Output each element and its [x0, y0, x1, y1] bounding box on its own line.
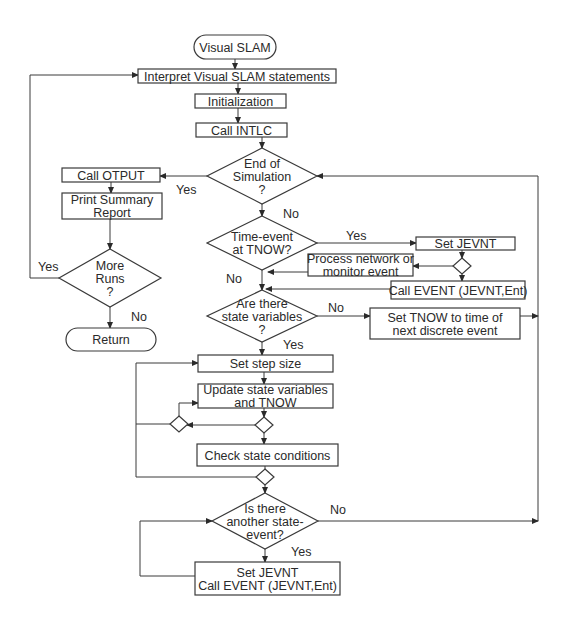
process-box-check: Check state conditions	[197, 444, 338, 466]
connector-arrow	[136, 363, 198, 477]
decision-label: ?	[259, 323, 266, 337]
process-label: Process network or	[307, 252, 414, 266]
process-box-settnow: Set TNOW to time ofnext discrete event	[370, 308, 520, 339]
process-label: monitor event	[323, 265, 399, 279]
process-label: next discrete event	[393, 324, 498, 338]
edge-label: Yes	[291, 545, 311, 559]
decision-label: another state-	[226, 515, 303, 529]
decision-label: ?	[259, 183, 266, 197]
process-box-init: Initialization	[195, 94, 286, 109]
process-label: Call EVENT (JEVNT,Ent)	[389, 284, 528, 298]
terminal-start: Visual SLAM	[194, 35, 276, 59]
decision-statevars: Are therestate variables?	[207, 290, 317, 342]
process-label: Print Summary	[71, 193, 154, 207]
connector-arrow	[317, 176, 538, 521]
process-label: Update state variables	[203, 383, 327, 397]
process-box-setjevnt: Set JEVNT	[416, 237, 515, 251]
decision-label: at TNOW?	[233, 243, 292, 257]
terminal-label: Visual SLAM	[199, 41, 270, 55]
decision-label: More	[96, 259, 125, 273]
decision-label: End of	[244, 157, 281, 171]
process-label: Initialization	[208, 95, 273, 109]
decision-label: Simulation	[233, 170, 291, 184]
process-label: Report	[93, 206, 131, 220]
edge-label: Yes	[38, 260, 58, 274]
junction-diamond-j4	[256, 469, 274, 485]
process-label: Set step size	[230, 357, 302, 371]
edge-label: Yes	[346, 229, 366, 243]
shape-layer: Visual SLAMReturnInterpret Visual SLAM s…	[59, 35, 527, 595]
junction-diamond-j3	[170, 416, 188, 432]
process-box-summary: Print SummaryReport	[62, 193, 162, 220]
process-box-interpret: Interpret Visual SLAM statements	[138, 69, 336, 84]
process-box-callevent: Call EVENT (JEVNT,Ent)	[389, 281, 528, 299]
terminal-label: Return	[92, 333, 130, 347]
process-label: Interpret Visual SLAM statements	[144, 70, 330, 84]
process-label: Set TNOW to time of	[387, 311, 503, 325]
decision-label: state variables	[222, 310, 303, 324]
edge-label: Yes	[283, 338, 303, 352]
process-box-stepsize: Set step size	[198, 355, 333, 372]
process-label: Call EVENT (JEVNT,Ent)	[198, 579, 337, 593]
junction-diamond-j1	[453, 258, 471, 274]
process-box-process: Process network ormonitor event	[307, 252, 414, 279]
process-label: Set JEVNT	[435, 237, 497, 251]
edge-label: No	[330, 503, 346, 517]
process-box-update: Update state variablesand TNOW	[198, 383, 333, 410]
decision-label: Runs	[95, 272, 124, 286]
connector-arrow	[179, 403, 198, 416]
decision-label: Time-event	[231, 230, 294, 244]
process-box-intlc: Call INTLC	[196, 123, 287, 138]
flowchart-canvas: Visual SLAMReturnInterpret Visual SLAM s…	[0, 0, 568, 622]
edge-label: No	[328, 301, 344, 315]
process-label: Call OTPUT	[77, 169, 145, 183]
process-label: and TNOW	[234, 396, 296, 410]
junction-diamond-j2	[255, 417, 273, 433]
edge-label: No	[226, 272, 242, 286]
decision-label: event?	[246, 528, 284, 542]
decision-label: Are there	[236, 297, 287, 311]
decision-another: Is thereanother state-event?	[212, 493, 318, 549]
decision-label: ?	[107, 285, 114, 299]
process-label: Set JEVNT	[237, 566, 299, 580]
decision-endsim: End ofSimulation?	[207, 148, 317, 204]
decision-label: Is there	[244, 502, 286, 516]
process-label: Call INTLC	[211, 124, 272, 138]
process-label: Check state conditions	[205, 449, 331, 463]
decision-timeevent: Time-eventat TNOW?	[207, 216, 317, 270]
terminal-return: Return	[66, 328, 156, 351]
edge-label: Yes	[176, 183, 196, 197]
decision-morerun: MoreRuns?	[59, 249, 161, 307]
process-box-otput: Call OTPUT	[62, 168, 160, 183]
edge-label: No	[131, 310, 147, 324]
edge-label: No	[283, 207, 299, 221]
process-box-setjevnt2: Set JEVNTCall EVENT (JEVNT,Ent)	[195, 562, 340, 595]
